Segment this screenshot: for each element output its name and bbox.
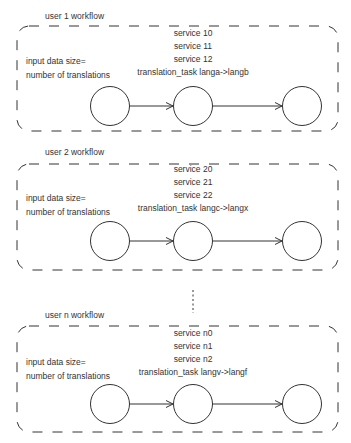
workflow-1-node-1 <box>91 87 130 126</box>
workflow-2-service-3: service 22 <box>93 189 293 202</box>
workflow-n-node-2 <box>174 385 213 424</box>
workflow-2-title: user 2 workflow <box>45 147 104 158</box>
workflow-n-input-label-1: input data size= <box>26 357 86 368</box>
workflow-1-node-2 <box>174 87 213 126</box>
workflow-2-node-1 <box>91 222 130 261</box>
workflow-2-node-3 <box>283 222 322 261</box>
workflow-2-service-2: service 21 <box>93 176 293 189</box>
workflow-2-input-label-1: input data size= <box>26 193 86 204</box>
workflow-n-node-3 <box>283 385 322 424</box>
workflow-2-node-2 <box>174 222 213 261</box>
workflow-n-title: user n workflow <box>45 310 104 321</box>
workflow-2-service-1: service 20 <box>93 163 293 176</box>
workflow-1-input-label-1: input data size= <box>26 56 86 67</box>
workflow-n-service-3: service n2 <box>93 353 293 366</box>
workflow-1-title: user 1 workflow <box>45 11 104 22</box>
workflow-2-task: translation_task langc->langx <box>93 202 293 215</box>
workflow-n-service-1: service n0 <box>93 327 293 340</box>
workflow-n-task: translation_task langv->langf <box>93 366 293 379</box>
workflow-n-node-1 <box>91 385 130 424</box>
workflow-1-service-2: service 11 <box>93 40 293 53</box>
workflow-1-service-1: service 10 <box>93 27 293 40</box>
workflow-n-service-2: service n1 <box>93 340 293 353</box>
workflow-1-service-3: service 12 <box>93 53 293 66</box>
workflow-1-node-3 <box>283 87 322 126</box>
workflow-1-task: translation_task langa->langb <box>93 66 293 79</box>
